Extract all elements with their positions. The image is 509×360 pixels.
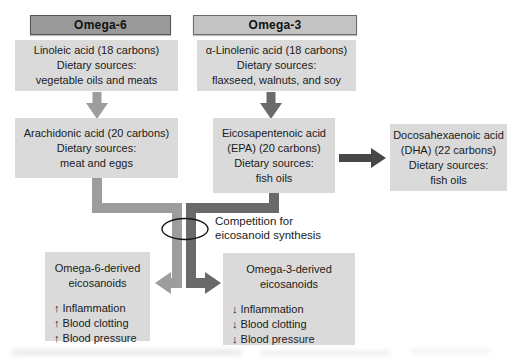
effect-item: ↑ Blood clotting (54, 316, 150, 331)
derived-box-title-line: Omega-6-derived (45, 261, 150, 276)
epa-box: Eicosapentenoic acid (EPA) (20 carbons) … (213, 118, 335, 193)
box-line: flaxseed, walnuts, and soy (197, 73, 356, 88)
arachidonic-acid-box: Arachidonic acid (20 carbons) Dietary so… (15, 118, 178, 178)
box-line: Linoleic acid (18 carbons) (15, 43, 178, 58)
box-line: Dietary sources: (15, 58, 178, 73)
effects-list: ↑ Inflammation ↑ Blood clotting ↑ Blood … (45, 301, 150, 346)
annotation-line: eicosanoid synthesis (215, 229, 321, 243)
effect-item: ↓ Blood pressure (232, 332, 355, 347)
box-line: fish oils (213, 171, 335, 186)
box-line: Dietary sources: (213, 156, 335, 171)
box-line: α-Linolenic acid (18 carbons) (197, 43, 356, 58)
dha-box: Docosahexaenoic acid (DHA) (22 carbons) … (390, 124, 507, 191)
box-line: Dietary sources: (197, 58, 356, 73)
box-line: (EPA) (20 carbons) (213, 141, 335, 156)
box-line: Docosahexaenoic acid (390, 128, 507, 143)
box-line: Arachidonic acid (20 carbons) (15, 126, 178, 141)
omega6-header: Omega-6 (30, 15, 171, 35)
box-line: Dietary sources: (15, 141, 178, 156)
box-line: (DHA) (22 carbons) (390, 143, 507, 158)
linoleic-acid-box: Linoleic acid (18 carbons) Dietary sourc… (15, 40, 178, 91)
competition-annotation: Competition for eicosanoid synthesis (215, 215, 321, 242)
derived-box-title-line: Omega-3-derived (223, 262, 355, 277)
omega3-header-label: Omega-3 (249, 18, 302, 32)
box-line: vegetable oils and meats (15, 73, 178, 88)
omega3-header: Omega-3 (193, 15, 357, 35)
scan-artifact (12, 349, 242, 356)
box-line: meat and eggs (15, 156, 178, 171)
box-line: Eicosapentenoic acid (213, 126, 335, 141)
effect-item: ↑ Blood pressure (54, 331, 150, 346)
scan-artifact (260, 350, 390, 356)
derived-box-title-line: eicosanoids (45, 276, 150, 291)
derived-box-title-line: eicosanoids (223, 277, 355, 292)
scan-artifact (410, 348, 490, 354)
competition-ellipse (162, 219, 208, 240)
alpha-linolenic-acid-box: α-Linolenic acid (18 carbons) Dietary so… (197, 40, 356, 91)
omega6-header-label: Omega-6 (74, 18, 127, 32)
box-line: Dietary sources: (390, 158, 507, 173)
omega3-derived-eicosanoids-box: Omega-3-derived eicosanoids ↓ Inflammati… (223, 253, 355, 345)
box-line: fish oils (390, 173, 507, 188)
effect-item: ↑ Inflammation (54, 301, 150, 316)
annotation-line: Competition for (215, 215, 321, 229)
effect-item: ↓ Inflammation (232, 302, 355, 317)
omega6-derived-eicosanoids-box: Omega-6-derived eicosanoids ↑ Inflammati… (45, 252, 150, 341)
effects-list: ↓ Inflammation ↓ Blood clotting ↓ Blood … (223, 302, 355, 347)
fatty-acid-pathway-diagram: Omega-6 Omega-3 Linoleic acid (18 carbon… (0, 0, 509, 360)
effect-item: ↓ Blood clotting (232, 317, 355, 332)
